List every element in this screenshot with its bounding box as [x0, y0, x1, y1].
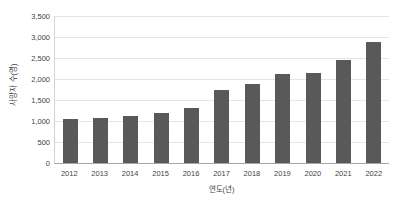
y-axis-tick-label: 3,000 [20, 33, 50, 42]
x-axis-tick-label: 2015 [145, 167, 175, 181]
bar-slot [146, 16, 176, 163]
bar[interactable] [366, 42, 381, 163]
bar-slot [359, 16, 389, 163]
y-axis-tick-label: 2,500 [20, 54, 50, 63]
y-axis-tick-label: 3,500 [20, 12, 50, 21]
x-axis-tick-label: 2021 [328, 167, 358, 181]
x-axis-tick-label: 2012 [54, 167, 84, 181]
bar[interactable] [63, 119, 78, 163]
y-axis-tick-label: 0 [20, 159, 50, 168]
x-axis-tick-label: 2022 [359, 167, 389, 181]
bar-slot [116, 16, 146, 163]
x-axis-tick-label: 2014 [115, 167, 145, 181]
bar[interactable] [245, 84, 260, 163]
bar[interactable] [154, 113, 169, 163]
x-axis-title: 연도(년) [54, 183, 389, 194]
bar-slot [85, 16, 115, 163]
plot-area [54, 16, 389, 164]
x-axis-tick-label: 2013 [84, 167, 114, 181]
y-axis-tick-labels: 05001,0001,5002,0002,5003,0003,500 [20, 0, 50, 168]
gridline [55, 163, 389, 164]
bar-slot [55, 16, 85, 163]
bar[interactable] [214, 90, 229, 164]
y-axis-tick-label: 1,000 [20, 117, 50, 126]
bar-slot [298, 16, 328, 163]
bar-slot [176, 16, 206, 163]
y-axis-title-label: 사망자 수(명) [7, 63, 18, 105]
y-axis-tick-label: 500 [20, 138, 50, 147]
bar-series [55, 16, 389, 163]
y-axis-tick-label: 2,000 [20, 75, 50, 84]
y-axis-tick-label: 1,500 [20, 96, 50, 105]
bar-slot [328, 16, 358, 163]
x-axis-tick-labels: 2012201320142015201620172018201920202021… [54, 167, 389, 181]
bar[interactable] [336, 60, 351, 163]
bar[interactable] [184, 108, 199, 163]
x-axis-tick-label: 2017 [206, 167, 236, 181]
bar[interactable] [275, 74, 290, 163]
x-axis-tick-label: 2016 [176, 167, 206, 181]
bar-slot [207, 16, 237, 163]
bar-slot [237, 16, 267, 163]
bar[interactable] [123, 116, 138, 163]
bar[interactable] [306, 73, 321, 163]
bar-slot [268, 16, 298, 163]
x-axis-tick-label: 2018 [237, 167, 267, 181]
x-axis-tick-label: 2019 [267, 167, 297, 181]
bar[interactable] [93, 118, 108, 163]
x-axis-tick-label: 2020 [298, 167, 328, 181]
bar-chart: 사망자 수(명) 05001,0001,5002,0002,5003,0003,… [0, 0, 397, 206]
